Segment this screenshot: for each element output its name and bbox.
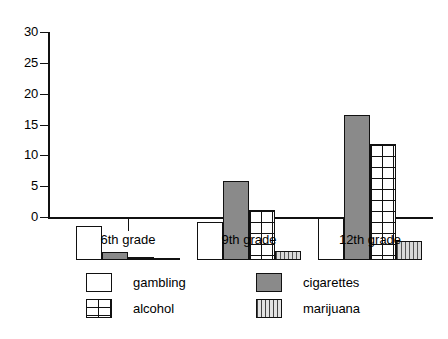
y-tick-label-text: 25 (12, 56, 38, 69)
y-tick-label-text: 0 (12, 210, 38, 223)
bar-cigarettes-6th-grade (102, 252, 128, 260)
y-tick-20 (40, 94, 49, 95)
x-axis-label-9th-grade: 9th grade (199, 232, 299, 247)
y-tick-label-10: 10 (8, 148, 38, 161)
legend-label: gambling (133, 274, 186, 291)
x-tick-12th-grade (370, 219, 371, 231)
y-tick-5 (40, 186, 49, 187)
y-tick-label-30: 30 (8, 25, 38, 38)
y-tick-label-text: 10 (12, 148, 38, 161)
legend-label: cigarettes (303, 274, 359, 291)
y-tick-15 (40, 125, 49, 126)
y-tick-30 (40, 32, 49, 33)
y-tick-label-0: 0 (8, 210, 38, 223)
legend-swatch-gambling-icon (86, 273, 112, 292)
bar-marijuana-6th-grade (154, 258, 180, 260)
y-tick-10 (40, 155, 49, 156)
x-axis-label-12th-grade: 12th grade (320, 232, 420, 247)
y-tick-label-text: 15 (12, 118, 38, 131)
y-tick-0 (40, 217, 49, 218)
legend-swatch-alcohol-icon (86, 299, 112, 318)
chart-legend: gamblingcigarettesalcoholmarijuana (86, 272, 386, 324)
legend-label: marijuana (303, 300, 360, 317)
y-tick-label-text: 5 (12, 179, 38, 192)
plot-area: 051015202530 6th grade9th grade12th grad… (0, 0, 448, 260)
y-tick-label-text: 30 (12, 25, 38, 38)
bar-marijuana-9th-grade (275, 251, 301, 260)
legend-swatch-cigarettes-icon (256, 273, 282, 292)
y-tick-label-text: 20 (12, 87, 38, 100)
legend-swatch-marijuana-icon (256, 299, 282, 318)
x-tick-6th-grade (128, 219, 129, 231)
y-axis (48, 32, 50, 219)
y-tick-label-25: 25 (8, 56, 38, 69)
x-axis-label-6th-grade: 6th grade (78, 232, 178, 247)
y-tick-label-20: 20 (8, 87, 38, 100)
bar-alcohol-6th-grade (128, 257, 154, 260)
bar-chart: 051015202530 6th grade9th grade12th grad… (0, 0, 448, 339)
y-tick-label-5: 5 (8, 179, 38, 192)
y-tick-25 (40, 63, 49, 64)
y-tick-label-15: 15 (8, 118, 38, 131)
legend-label: alcohol (133, 300, 174, 317)
x-tick-9th-grade (249, 219, 250, 231)
bar-cigarettes-9th-grade (223, 181, 249, 260)
